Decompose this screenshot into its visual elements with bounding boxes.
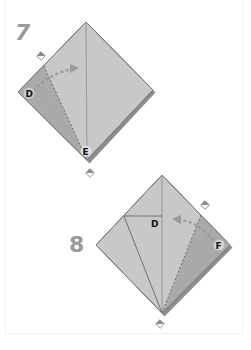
step-8-diagram: D F xyxy=(86,168,233,328)
point-label-D: D xyxy=(151,219,158,229)
pivot-marker-icon xyxy=(156,320,164,328)
point-label-E: E xyxy=(83,147,89,157)
pivot-marker-icon xyxy=(201,201,209,209)
step-7-diagram: D E xyxy=(18,22,156,177)
origami-diagram: D E D F xyxy=(0,0,251,350)
pivot-marker-icon xyxy=(37,52,45,60)
step-number-7: 7 xyxy=(15,22,30,44)
point-label-D: D xyxy=(26,89,33,99)
point-label-F: F xyxy=(216,241,222,251)
step-number-8: 8 xyxy=(69,234,84,256)
